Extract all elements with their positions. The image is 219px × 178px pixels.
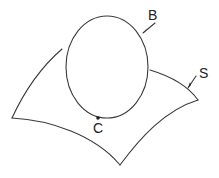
surface-left-edge	[12, 49, 62, 118]
surface-s	[12, 49, 198, 165]
label-b: B	[148, 7, 157, 23]
diagram-canvas: B S C	[0, 0, 219, 178]
label-c: C	[93, 120, 103, 136]
leader-arrow-s	[188, 82, 191, 88]
surface-bottom-left-edge	[12, 118, 120, 165]
boundary-curve-b	[66, 16, 148, 118]
leader-line-b	[143, 23, 155, 33]
label-s: S	[199, 65, 208, 81]
surface-bottom-right-edge	[120, 100, 198, 165]
